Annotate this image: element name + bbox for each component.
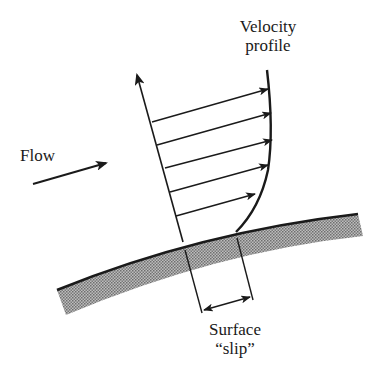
- slip-dimension-arrow: [204, 297, 250, 310]
- velocity-arrow-1: [152, 89, 268, 122]
- velocity-arrow-2: [157, 113, 271, 145]
- velocity-profile-label: Velocity profile: [232, 17, 304, 55]
- surface-slip-label: Surface “slip”: [200, 320, 270, 358]
- velocity-arrow-5: [176, 194, 255, 216]
- velocity-profile-curve: [236, 70, 271, 232]
- velocity-profile-label-line-1: Velocity: [232, 17, 304, 36]
- flow-label: Flow: [20, 146, 55, 165]
- surface-slip-label-line-2: “slip”: [200, 339, 270, 358]
- surface-slip-label-line-1: Surface: [200, 320, 270, 339]
- velocity-profile-label-line-2: profile: [232, 36, 304, 55]
- velocity-arrow-3: [165, 140, 272, 168]
- surface-solid-shading: [57, 214, 363, 315]
- velocity-slip-diagram: [0, 0, 388, 378]
- velocity-arrow-4: [170, 165, 268, 192]
- flow-direction-arrow: [33, 163, 106, 184]
- normal-axis-arrow: [137, 75, 183, 242]
